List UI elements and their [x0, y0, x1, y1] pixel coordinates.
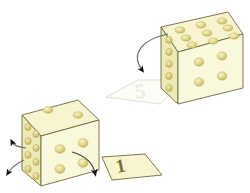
upper-right-die: 5 [106, 12, 243, 104]
solid-sheet-surface [102, 154, 162, 180]
lower-die-body [22, 100, 99, 186]
upper-die-body [161, 12, 243, 104]
figure-canvas: 5 [0, 0, 250, 193]
solid-sheet: 1 [102, 154, 162, 180]
lower-left-die: 1 [8, 100, 162, 186]
dice-unfolding-illustration: 5 [0, 0, 250, 193]
